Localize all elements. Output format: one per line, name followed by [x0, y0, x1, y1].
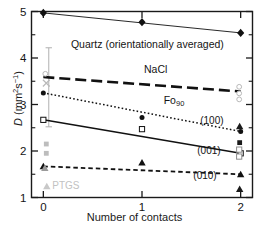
y-axis-label: D (mm2s−1) — [11, 54, 24, 144]
datapoint-gray-square-hi — [44, 142, 49, 147]
datapoint-gray-open-circle-x2-b — [237, 91, 242, 96]
datapoint-quartz-orientationally-averaged-0 — [40, 9, 47, 17]
datapoint-fo90-010-1 — [138, 159, 145, 166]
plane-010-label: (010) — [193, 170, 216, 181]
datapoint-quartz-orientationally-averaged-1 — [138, 18, 145, 26]
quartz-label: Quartz (orientationally averaged) — [71, 38, 224, 50]
datapoint-fo90-010-2 — [237, 171, 244, 178]
datapoint-black-marker-x2-hi — [236, 123, 243, 130]
datapoint-fo90-100-1 — [140, 115, 145, 120]
trend-line-nacl — [43, 77, 240, 91]
y-tick-label: 1 — [20, 192, 26, 204]
datapoint-open-square-x2-b — [237, 154, 242, 159]
datapoint-gray-open-circle-x2-c — [237, 97, 242, 102]
datapoint-black-triangle-x2-lo — [236, 186, 243, 193]
datapoint-gray-open-circle — [43, 71, 48, 76]
plane-100-label: (100) — [200, 115, 223, 126]
datapoint-gray-square-lo — [44, 151, 49, 156]
y-tick-label: 2 — [20, 145, 26, 157]
plane-001-label: (001) — [197, 145, 220, 156]
datapoint-fo90-001-0 — [41, 117, 46, 122]
plot-area: 12345012 — [0, 0, 269, 232]
datapoint-black-square-x2 — [237, 140, 242, 145]
fo90-label-subscript: 90 — [176, 99, 184, 108]
datapoint-fo90-100-2 — [238, 129, 243, 134]
y-tick-label: 5 — [20, 6, 26, 18]
datapoint-fo90-001-1 — [139, 127, 144, 132]
datapoint-fo90-100-0 — [41, 90, 46, 95]
datapoint-gray-triangle-ptgs — [43, 183, 50, 190]
fo90-label: Fo90 — [164, 94, 185, 108]
x-axis-label: Number of contacts — [0, 211, 269, 223]
diffusivity-chart: 12345012 D (mm2s−1) Number of contacts Q… — [0, 0, 269, 232]
datapoint-gray-open-circle-x2-a — [237, 84, 242, 89]
datapoint-open-square-x2-a — [237, 147, 242, 152]
datapoint-quartz-orientationally-averaged-2 — [237, 29, 244, 37]
ptgs-label: PTGS — [52, 180, 79, 191]
nacl-label: NaCl — [144, 63, 167, 75]
